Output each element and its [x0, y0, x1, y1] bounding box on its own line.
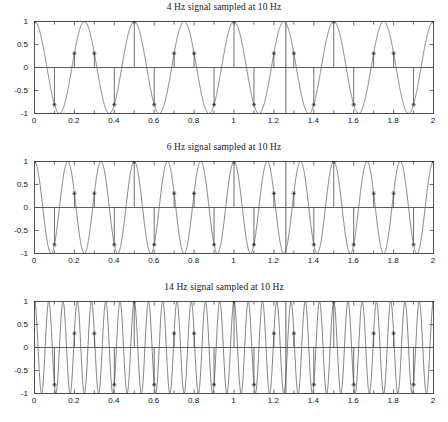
- x-tick-label: 0.8: [181, 256, 207, 265]
- x-tick-label: 0: [21, 116, 47, 125]
- x-tick-label: 1.6: [340, 256, 366, 265]
- x-tick-label: 0.8: [181, 116, 207, 125]
- x-tick-label: 0.2: [61, 396, 87, 405]
- x-tick-label: 0.6: [141, 116, 167, 125]
- y-tick-label: 1: [4, 297, 28, 306]
- x-tick-label: 0.4: [101, 256, 127, 265]
- plot-svg-1: [34, 21, 434, 114]
- plot-svg-2: [34, 161, 434, 254]
- y-tick-label: 0: [4, 343, 28, 352]
- x-tick-label: 1.6: [340, 396, 366, 405]
- y-tick-label: -0.5: [4, 226, 28, 235]
- subplot-panel-1: 4 Hz signal sampled at 10 Hz -1-0.500.51…: [0, 2, 448, 140]
- x-tick-label: 1: [221, 116, 247, 125]
- x-tick-label: 0: [21, 256, 47, 265]
- x-tick-label: 1.8: [380, 116, 406, 125]
- x-tick-label: 0.6: [141, 396, 167, 405]
- subplot-panel-2: 6 Hz signal sampled at 10 Hz -1-0.500.51…: [0, 142, 448, 280]
- sample-stems: [34, 161, 434, 247]
- x-tick-label: 0.2: [61, 116, 87, 125]
- x-tick-label: 0.6: [141, 256, 167, 265]
- x-tick-label: 0.2: [61, 256, 87, 265]
- plot-area-2: [34, 161, 434, 254]
- x-tick-label: 1.8: [380, 256, 406, 265]
- y-tick-label: -0.5: [4, 86, 28, 95]
- x-tick-label: 1.4: [300, 256, 326, 265]
- sample-stems: [34, 21, 434, 107]
- x-tick-label: 2: [420, 396, 446, 405]
- y-tick-label: 1: [4, 157, 28, 166]
- x-tick-label: 1.2: [260, 396, 286, 405]
- sample-stems: [34, 301, 434, 387]
- plot-area-3: [34, 301, 434, 394]
- subplot-panel-3: 14 Hz signal sampled at 10 Hz -1-0.500.5…: [0, 282, 448, 420]
- figure-canvas: 4 Hz signal sampled at 10 Hz -1-0.500.51…: [0, 0, 448, 422]
- x-tick-label: 0: [21, 396, 47, 405]
- x-tick-label: 0.4: [101, 116, 127, 125]
- plot-svg-3: [34, 301, 434, 394]
- x-tick-label: 1.2: [260, 256, 286, 265]
- y-tick-label: 0.5: [4, 180, 28, 189]
- plot-area-1: [34, 21, 434, 114]
- x-tick-label: 1.4: [300, 116, 326, 125]
- x-tick-label: 2: [420, 256, 446, 265]
- y-tick-label: -0.5: [4, 366, 28, 375]
- y-tick-label: 0: [4, 203, 28, 212]
- x-tick-label: 0.8: [181, 396, 207, 405]
- x-tick-label: 1.2: [260, 116, 286, 125]
- x-tick-label: 1.6: [340, 116, 366, 125]
- y-tick-label: 1: [4, 17, 28, 26]
- x-tick-label: 1.4: [300, 396, 326, 405]
- panel-title-1: 4 Hz signal sampled at 10 Hz: [0, 2, 448, 12]
- y-tick-label: 0.5: [4, 320, 28, 329]
- y-tick-label: 0.5: [4, 40, 28, 49]
- x-tick-label: 1: [221, 396, 247, 405]
- panel-title-2: 6 Hz signal sampled at 10 Hz: [0, 142, 448, 152]
- caption-fragment: [0, 413, 448, 422]
- x-tick-label: 0.4: [101, 396, 127, 405]
- x-tick-label: 1.8: [380, 396, 406, 405]
- x-tick-label: 2: [420, 116, 446, 125]
- y-tick-label: 0: [4, 63, 28, 72]
- panel-title-3: 14 Hz signal sampled at 10 Hz: [0, 282, 448, 292]
- x-tick-label: 1: [221, 256, 247, 265]
